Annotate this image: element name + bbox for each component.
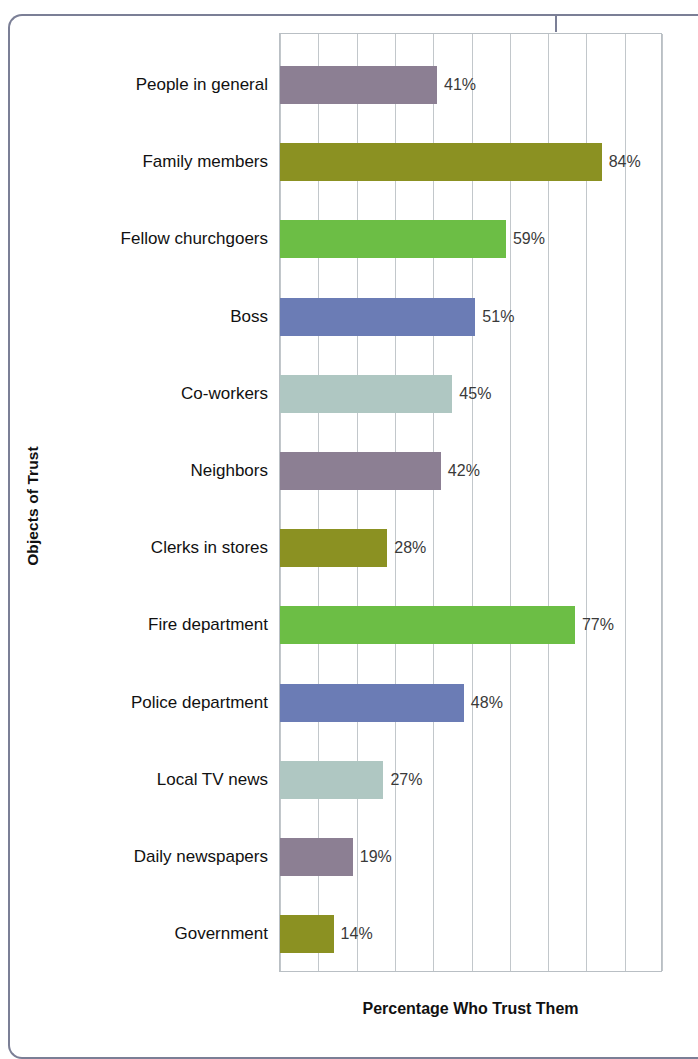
bar-value-label: 84% [602, 143, 641, 181]
bar [280, 606, 575, 644]
bar-row: Boss51% [0, 298, 682, 336]
bar-row: Clerks in stores28% [0, 529, 682, 567]
category-label: Daily newspapers [0, 838, 268, 876]
bar-value-label: 45% [452, 375, 491, 413]
bar-value-label: 28% [387, 529, 426, 567]
bar-value-label: 48% [464, 684, 503, 722]
category-label: Co-workers [0, 375, 268, 413]
bar-row: Government14% [0, 915, 682, 953]
bar [280, 761, 383, 799]
category-label: Boss [0, 298, 268, 336]
bar-value-label: 27% [383, 761, 422, 799]
category-label: Family members [0, 143, 268, 181]
bar [280, 375, 452, 413]
category-label: People in general [0, 66, 268, 104]
category-label: Clerks in stores [0, 529, 268, 567]
category-label: Fellow churchgoers [0, 220, 268, 258]
bar [280, 220, 506, 258]
category-label: Fire department [0, 606, 268, 644]
category-label: Neighbors [0, 452, 268, 490]
bar [280, 452, 441, 490]
bar-row: Daily newspapers19% [0, 838, 682, 876]
bar-value-label: 14% [334, 915, 373, 953]
bar [280, 915, 334, 953]
category-label: Government [0, 915, 268, 953]
x-axis-title: Percentage Who Trust Them [279, 1000, 662, 1018]
bar-row: Local TV news27% [0, 761, 682, 799]
bar [280, 529, 387, 567]
bar-value-label: 59% [506, 220, 545, 258]
bar [280, 298, 475, 336]
bar-row: Co-workers45% [0, 375, 682, 413]
bar-value-label: 77% [575, 606, 614, 644]
bar [280, 838, 353, 876]
bar-row: Family members84% [0, 143, 682, 181]
bar-value-label: 42% [441, 452, 480, 490]
category-label: Local TV news [0, 761, 268, 799]
bar [280, 66, 437, 104]
bar-value-label: 41% [437, 66, 476, 104]
bar-value-label: 51% [475, 298, 514, 336]
y-axis-title: Objects of Trust [24, 406, 42, 606]
bar [280, 684, 464, 722]
bar-row: Neighbors42% [0, 452, 682, 490]
category-label: Police department [0, 684, 268, 722]
bar-row: Fellow churchgoers59% [0, 220, 682, 258]
bar-row: People in general41% [0, 66, 682, 104]
bar [280, 143, 602, 181]
bar-row: Fire department77% [0, 606, 682, 644]
bar-value-label: 19% [353, 838, 392, 876]
bar-row: Police department48% [0, 684, 682, 722]
